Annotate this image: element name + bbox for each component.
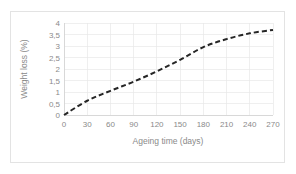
y-axis-title: Weight loss (%): [19, 39, 29, 99]
x-tick-label: 0: [62, 120, 67, 129]
y-tick-label: 0: [56, 111, 61, 120]
horizontal-gridlines: [64, 23, 273, 115]
chart-frame: 00,511,522,533,54 0306090120150180210240…: [10, 11, 285, 163]
weight-loss-line-chart: 00,511,522,533,54 0306090120150180210240…: [11, 12, 284, 162]
y-tick-label: 3: [56, 42, 61, 51]
chart-figure: 00,511,522,533,54 0306090120150180210240…: [0, 0, 296, 174]
x-axis-tick-labels: 0306090120150180210240270: [62, 120, 280, 129]
x-axis-title: Ageing time (days): [133, 136, 204, 146]
y-tick-label: 4: [56, 19, 61, 28]
x-tick-label: 30: [83, 120, 92, 129]
x-tick-label: 120: [150, 120, 164, 129]
y-tick-label: 1: [56, 88, 61, 97]
x-tick-label: 150: [173, 120, 187, 129]
x-tick-label: 240: [243, 120, 257, 129]
x-tick-label: 90: [129, 120, 138, 129]
y-tick-label: 1,5: [49, 77, 61, 86]
x-tick-label: 60: [106, 120, 115, 129]
x-tick-label: 210: [220, 120, 234, 129]
y-tick-label: 0,5: [49, 100, 61, 109]
y-tick-label: 3,5: [49, 31, 61, 40]
y-tick-label: 2,5: [49, 54, 61, 63]
y-axis-tick-labels: 00,511,522,533,54: [49, 19, 61, 120]
x-tick-label: 270: [266, 120, 280, 129]
y-tick-label: 2: [56, 65, 61, 74]
data-series-weight-loss: [64, 30, 273, 115]
x-tick-label: 180: [197, 120, 211, 129]
